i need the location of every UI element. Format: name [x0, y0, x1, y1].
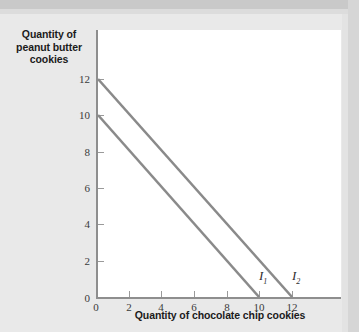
curve-label-I1: I1	[259, 268, 267, 286]
curve-label-I1-subscript: 1	[263, 277, 267, 286]
indifference-curve-I2	[98, 79, 292, 297]
indifference-curve-I1	[98, 115, 259, 297]
indifference-curve-chart: 0 2 4 6 8 10 12 0 2 4 6 8 10 12 I1 I2 Qu…	[0, 0, 359, 332]
x-axis-title: Quantity of chocolate chip cookies	[96, 309, 344, 321]
curve-label-I2-subscript: 2	[296, 277, 300, 286]
curve-label-I2: I2	[292, 268, 300, 286]
y-axis-title: Quantity of peanut butter cookies	[8, 28, 90, 66]
